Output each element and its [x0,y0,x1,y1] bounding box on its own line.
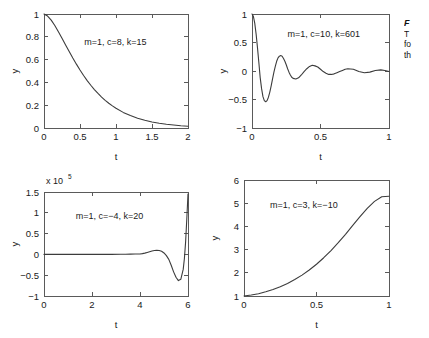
y-tick-label: −0.5 [20,270,39,281]
x-tick-label: 6 [185,299,190,310]
y-tick-label: −1 [236,123,247,134]
plot-bottom-left: 0246−1−0.500.511.5x 105tym=1, c=−4, k=20 [6,170,196,334]
plot-bottom-right: 00.51123456tym=1, c=3, k=−10 [212,170,397,334]
y-tick-label: 0.5 [26,228,39,239]
y-tick-label: 0.6 [26,54,39,65]
y-axis-multiplier: x 105 [46,173,72,186]
y-tick-label: 1 [234,291,239,302]
y-tick-label: 1 [242,9,247,20]
y-tick-label: 0.5 [234,37,247,48]
x-axis-label: t [115,319,118,330]
y-axis-label: y [9,68,20,73]
x-tick-label: 2 [185,131,190,142]
y-axis-label: y [212,235,220,240]
x-tick-label: 0 [41,131,46,142]
x-tick-label: 4 [137,299,142,310]
subplot-bottom-left: 0246−1−0.500.511.5x 105tym=1, c=−4, k=20 [6,170,196,334]
y-tick-label: 0 [242,66,247,77]
svg-text:x 10: x 10 [46,176,63,186]
y-axis-label: y [9,241,20,246]
y-tick-label: −1 [28,291,39,302]
x-tick-label: 0.5 [314,131,327,142]
x-tick-label: 0 [241,299,246,310]
data-curve [252,14,389,102]
y-axis-label: y [217,68,228,73]
y-tick-label: 5 [234,198,239,209]
x-axis-label: t [315,319,318,330]
y-tick-label: 4 [234,221,239,232]
x-axis-label: t [319,151,322,162]
subplot-top-left: 00.511.5200.20.40.60.81tym=1, c=8, k=15 [6,4,196,166]
y-tick-label: 1.5 [26,187,39,198]
plot-frame [44,192,188,296]
y-tick-label: 3 [234,244,239,255]
y-tick-label: 6 [234,175,239,186]
x-tick-label: 0 [249,131,254,142]
y-tick-label: 2 [234,267,239,278]
data-curve [244,196,389,296]
y-tick-label: 1 [34,207,39,218]
subplot-top-right: 00.51−1−0.500.51tym=1, c=10, k=601 [212,4,397,166]
plot-top-left: 00.511.5200.20.40.60.81tym=1, c=8, k=15 [6,4,196,166]
caption-line-3: th [404,50,429,61]
x-tick-label: 0.5 [310,299,323,310]
parameter-annotation: m=1, c=10, k=601 [288,29,360,39]
x-tick-label: 1.5 [145,131,158,142]
figure-caption-truncated: F T fo th [404,18,429,60]
plot-frame [244,180,389,296]
x-tick-label: 2 [89,299,94,310]
caption-line-2: fo [404,39,429,50]
plot-frame [44,14,188,128]
caption-line-1: T [404,29,429,40]
y-tick-label: −0.5 [228,94,247,105]
parameter-annotation: m=1, c=8, k=15 [84,37,146,47]
svg-text:5: 5 [68,173,72,180]
y-tick-label: 0 [34,123,39,134]
x-tick-label: 1 [386,131,391,142]
parameter-annotation: m=1, c=3, k=−10 [270,200,338,210]
y-tick-label: 0 [34,249,39,260]
subplot-bottom-right: 00.51123456tym=1, c=3, k=−10 [212,170,397,334]
plot-top-right: 00.51−1−0.500.51tym=1, c=10, k=601 [212,4,397,166]
caption-title: F [404,18,429,29]
y-tick-label: 1 [34,9,39,20]
x-tick-label: 1 [113,131,118,142]
x-tick-label: 0 [41,299,46,310]
y-tick-label: 0.4 [26,77,39,88]
x-tick-label: 0.5 [73,131,86,142]
parameter-annotation: m=1, c=−4, k=20 [76,211,144,221]
data-curve [44,14,188,126]
x-axis-label: t [115,151,118,162]
y-tick-label: 0.8 [26,31,39,42]
y-tick-label: 0.2 [26,100,39,111]
x-tick-label: 1 [386,299,391,310]
figure-panel-grid: 00.511.5200.20.40.60.81tym=1, c=8, k=15 … [0,0,429,338]
data-curve [44,194,188,281]
